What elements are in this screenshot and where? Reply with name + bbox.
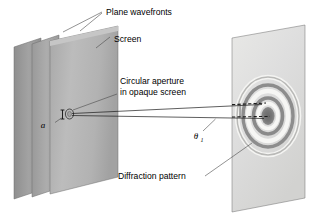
opaque-screen-panel: [50, 26, 118, 194]
aperture-diameter-label: a: [41, 120, 46, 130]
circular-aperture: [65, 109, 73, 119]
label-diffraction-pattern: Diffraction pattern: [118, 171, 186, 181]
leader-plane-wavefronts: [63, 12, 102, 32]
label-circular-aperture-line2: in opaque screen: [120, 87, 186, 97]
angle-theta-label: θ: [194, 131, 199, 141]
diffraction-figure: a θ 1: [0, 0, 310, 222]
label-plane-wavefronts: Plane wavefronts: [106, 7, 172, 17]
label-circular-aperture-line1: Circular aperture: [120, 76, 184, 86]
label-screen: Screen: [114, 34, 141, 44]
angle-theta-subscript: 1: [201, 137, 204, 143]
angle-theta-marker: [203, 119, 216, 131]
figure-canvas: a θ 1: [0, 0, 310, 222]
